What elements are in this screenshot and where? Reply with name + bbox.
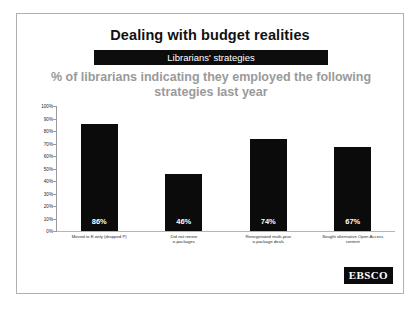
ebsco-logo: EBSCO — [344, 267, 393, 284]
y-axis-tick — [53, 144, 57, 145]
y-axis-tick — [53, 194, 57, 195]
y-axis-tick — [53, 219, 57, 220]
bar: 46% — [165, 174, 202, 232]
y-axis: 100%90%80%70%60%50%40%30%20%10%0% — [27, 106, 53, 231]
x-tick-label: Renegotiated multi-year e-package deals — [222, 234, 314, 245]
y-tick-label: 10% — [44, 216, 53, 221]
y-tick-label: 60% — [44, 154, 53, 159]
y-axis-tick — [53, 231, 57, 232]
section-banner: Librarians' strategies — [94, 50, 328, 65]
y-axis-tick — [53, 181, 57, 182]
bar-value-label: 86% — [81, 217, 118, 226]
y-tick-label: 30% — [44, 191, 53, 196]
section-banner-label: Librarians' strategies — [94, 50, 328, 65]
x-tick-label: Moved to E-only (dropped P) — [53, 234, 145, 239]
bar-value-label: 67% — [334, 217, 371, 226]
y-axis-tick — [53, 156, 57, 157]
y-axis-tick — [53, 131, 57, 132]
plot-area: 86%46%74%67% — [57, 106, 395, 231]
bar: 67% — [334, 147, 371, 231]
y-axis-tick — [53, 106, 57, 107]
bar-value-label: 46% — [165, 217, 202, 226]
y-tick-label: 70% — [44, 141, 53, 146]
y-axis-tick — [53, 206, 57, 207]
page-top-cutoff-strip — [0, 0, 420, 13]
x-axis: Moved to E-only (dropped P)Did not renew… — [57, 234, 395, 262]
page-title: Dealing with budget realities — [17, 27, 403, 43]
chart-subtitle: % of librarians indicating they employed… — [43, 70, 379, 100]
x-tick-label: Did not renew e-packages — [138, 234, 230, 245]
y-axis-tick — [53, 119, 57, 120]
bar: 86% — [81, 124, 118, 232]
x-axis-line — [56, 231, 395, 232]
y-tick-label: 90% — [44, 116, 53, 121]
slide-frame: Dealing with budget realities Librarians… — [16, 13, 404, 294]
y-axis-tick — [53, 169, 57, 170]
y-tick-label: 80% — [44, 129, 53, 134]
y-tick-label: 40% — [44, 179, 53, 184]
y-tick-label: 50% — [44, 166, 53, 171]
y-tick-label: 100% — [41, 104, 53, 109]
bar: 74% — [250, 139, 287, 232]
y-tick-label: 0% — [46, 229, 53, 234]
bar-chart: 100%90%80%70%60%50%40%30%20%10%0% 86%46%… — [17, 106, 405, 266]
x-tick-label: Sought alternative Open Access content — [307, 234, 399, 245]
bar-value-label: 74% — [250, 217, 287, 226]
y-tick-label: 20% — [44, 204, 53, 209]
